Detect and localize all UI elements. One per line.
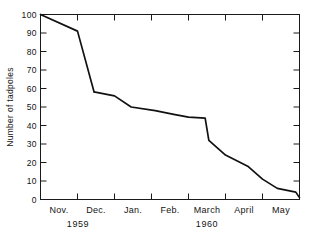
y-tick-label-80: 80: [27, 47, 37, 57]
x-year-labels: 1959 1960: [67, 219, 218, 229]
y-tick-label-10: 10: [27, 176, 37, 186]
y-tick-label-50: 50: [27, 102, 37, 112]
data-series-tadpoles: [41, 15, 300, 198]
y-tick-label-90: 90: [27, 28, 37, 38]
line-chart-svg: 100 90 80 70 60 50 40 30 20 10 0 Number …: [0, 0, 313, 239]
plot-frame: [41, 15, 300, 200]
x-label-march: March: [194, 205, 221, 215]
x-label-feb: Feb.: [160, 205, 179, 215]
year-label-1959: 1959: [67, 219, 89, 229]
x-category-labels: Nov. Dec. Jan. Feb. March April May: [49, 205, 290, 215]
x-axis-ticks-top: [78, 15, 263, 21]
y-tick-label-40: 40: [27, 121, 37, 131]
tadpole-survival-line: [41, 15, 300, 198]
y-tick-label-0: 0: [32, 195, 37, 205]
y-tick-label-70: 70: [27, 65, 37, 75]
year-label-1960: 1960: [196, 219, 218, 229]
y-tick-label-20: 20: [27, 158, 37, 168]
y-tick-labels: 100 90 80 70 60 50 40 30 20 10 0: [22, 10, 37, 205]
y-axis-title-text: Number of tadpoles: [5, 67, 15, 147]
x-label-dec: Dec.: [86, 205, 106, 215]
y-axis-ticks-left: [41, 15, 47, 200]
x-label-april: April: [234, 205, 254, 215]
y-tick-label-100: 100: [22, 10, 37, 20]
y-tick-label-30: 30: [27, 139, 37, 149]
x-label-nov: Nov.: [49, 205, 68, 215]
chart-figure: 100 90 80 70 60 50 40 30 20 10 0 Number …: [0, 0, 313, 239]
y-axis-ticks-right: [294, 33, 300, 181]
x-label-may: May: [272, 205, 290, 215]
x-label-jan: Jan.: [124, 205, 142, 215]
y-tick-label-60: 60: [27, 84, 37, 94]
y-axis-title: Number of tadpoles: [5, 67, 15, 147]
x-axis-ticks-bottom: [78, 194, 263, 200]
